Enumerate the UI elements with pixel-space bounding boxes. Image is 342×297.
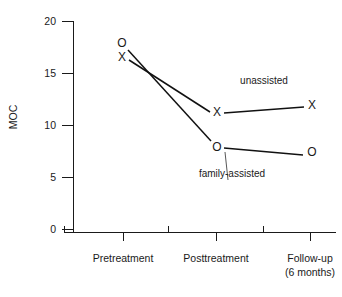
y-tick-label-5: 5 bbox=[50, 171, 56, 183]
series-line-family-assisted-segment-1 bbox=[128, 50, 211, 141]
marker-unassisted-followup: X bbox=[308, 98, 316, 112]
series-line-unassisted-segment-2 bbox=[224, 107, 304, 113]
series-line-unassisted-segment-1 bbox=[129, 60, 210, 112]
marker-unassisted-posttreatment: X bbox=[213, 105, 221, 119]
line-chart: 20 15 10 5 0 MOC Pretreatment Posttreatm… bbox=[0, 0, 342, 297]
series-annotation-unassisted: unassisted bbox=[240, 75, 288, 86]
series-annotation-family-assisted: family-assisted bbox=[199, 168, 265, 179]
x-tick-label-followup-line2: (6 months) bbox=[285, 266, 335, 278]
chart-container: 20 15 10 5 0 MOC Pretreatment Posttreatm… bbox=[0, 0, 342, 297]
y-axis-title: MOC bbox=[7, 104, 19, 129]
x-tick-label-pretreatment: Pretreatment bbox=[93, 252, 154, 264]
series-line-family-assisted-segment-2 bbox=[224, 148, 303, 155]
x-tick-label-followup-line1: Follow-up bbox=[287, 252, 333, 264]
y-tick-label-0: 0 bbox=[50, 223, 56, 235]
marker-family-assisted-posttreatment: O bbox=[212, 140, 221, 154]
marker-unassisted-pretreatment: X bbox=[118, 50, 126, 64]
y-tick-label-10: 10 bbox=[44, 119, 56, 131]
y-tick-label-20: 20 bbox=[44, 15, 56, 27]
marker-family-assisted-followup: O bbox=[307, 145, 316, 159]
marker-family-assisted-pretreatment: O bbox=[117, 36, 126, 50]
x-tick-label-posttreatment: Posttreatment bbox=[183, 252, 248, 264]
y-tick-label-15: 15 bbox=[44, 67, 56, 79]
